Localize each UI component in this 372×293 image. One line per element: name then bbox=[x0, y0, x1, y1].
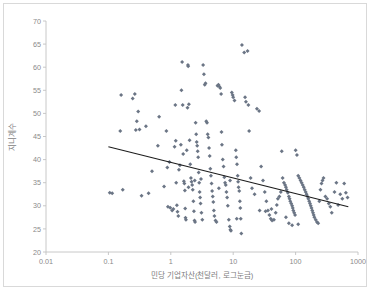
y-tick-label: 40 bbox=[33, 155, 41, 164]
data-point bbox=[176, 214, 180, 218]
x-tick-label: 1 bbox=[169, 257, 173, 266]
data-point bbox=[136, 110, 140, 114]
y-tick-label: 25 bbox=[33, 225, 41, 234]
data-point bbox=[261, 178, 265, 182]
data-point bbox=[239, 217, 243, 221]
data-point bbox=[180, 60, 184, 64]
data-point bbox=[236, 180, 240, 184]
data-point bbox=[137, 128, 141, 132]
data-point bbox=[189, 176, 193, 180]
data-point bbox=[219, 92, 223, 96]
data-point bbox=[280, 149, 284, 153]
x-axis-title: 민당 기업자산(천달러, 로그눈금) bbox=[151, 270, 254, 280]
data-point bbox=[135, 119, 139, 123]
data-point bbox=[290, 223, 294, 227]
data-point bbox=[202, 72, 206, 76]
data-point bbox=[173, 145, 177, 149]
data-point bbox=[220, 143, 224, 147]
data-point bbox=[340, 197, 344, 201]
data-point bbox=[221, 158, 225, 162]
data-point bbox=[185, 106, 189, 110]
data-point bbox=[175, 210, 179, 214]
data-point bbox=[217, 186, 221, 190]
data-point bbox=[206, 132, 210, 136]
data-point bbox=[281, 176, 285, 180]
chart-frame: 2025303540455055606570 0.010.11101001000… bbox=[3, 3, 367, 287]
data-point bbox=[212, 214, 216, 218]
data-point bbox=[165, 165, 169, 169]
data-point bbox=[244, 100, 248, 104]
data-point bbox=[177, 168, 181, 172]
data-point bbox=[338, 192, 342, 196]
x-axis-ticks: 0.010.11101001000 bbox=[39, 252, 366, 266]
data-point bbox=[235, 217, 239, 221]
y-tick-label: 35 bbox=[33, 178, 41, 187]
data-point bbox=[174, 139, 178, 143]
data-point bbox=[294, 148, 298, 152]
data-point bbox=[194, 121, 198, 125]
data-point bbox=[198, 190, 202, 194]
data-point bbox=[131, 97, 135, 101]
data-point bbox=[208, 167, 212, 171]
data-point bbox=[246, 49, 250, 53]
y-tick-label: 70 bbox=[33, 17, 41, 26]
data-point bbox=[228, 178, 232, 182]
data-point bbox=[175, 203, 179, 207]
y-tick-label: 60 bbox=[33, 63, 41, 72]
data-point bbox=[318, 188, 322, 192]
data-point bbox=[208, 154, 212, 158]
data-point bbox=[196, 149, 200, 153]
data-point bbox=[210, 189, 214, 193]
data-point bbox=[200, 218, 204, 222]
data-point bbox=[201, 63, 205, 67]
data-point bbox=[319, 182, 323, 186]
data-point bbox=[334, 181, 338, 185]
data-point bbox=[147, 191, 151, 195]
data-point bbox=[235, 162, 239, 166]
data-point bbox=[237, 185, 241, 189]
data-point bbox=[239, 232, 243, 236]
data-point bbox=[287, 221, 291, 225]
data-point bbox=[259, 165, 263, 169]
data-point bbox=[118, 129, 122, 133]
data-point bbox=[220, 130, 224, 134]
data-point bbox=[236, 174, 240, 178]
data-point bbox=[157, 115, 161, 119]
data-point bbox=[209, 174, 213, 178]
y-tick-label: 45 bbox=[33, 132, 41, 141]
y-axis-title: 지니계수 bbox=[7, 123, 17, 151]
data-point bbox=[188, 162, 192, 166]
data-point bbox=[181, 152, 185, 156]
data-point bbox=[144, 124, 148, 128]
data-point bbox=[174, 181, 178, 185]
data-point bbox=[194, 132, 198, 136]
data-point bbox=[164, 129, 168, 133]
data-point bbox=[264, 199, 268, 203]
data-point bbox=[211, 195, 215, 199]
x-tick-label: 100 bbox=[290, 257, 302, 266]
data-point bbox=[119, 93, 123, 97]
data-point bbox=[296, 222, 300, 226]
data-point bbox=[247, 129, 251, 133]
data-point bbox=[134, 128, 138, 132]
scatter-plot: 2025303540455055606570 0.010.11101001000… bbox=[4, 4, 368, 288]
data-point bbox=[186, 185, 190, 189]
data-point bbox=[179, 88, 183, 92]
data-point bbox=[199, 201, 203, 205]
data-point bbox=[284, 215, 288, 219]
data-point bbox=[156, 144, 160, 148]
y-tick-label: 65 bbox=[33, 40, 41, 49]
data-point bbox=[207, 146, 211, 150]
data-point bbox=[246, 103, 250, 107]
data-point bbox=[195, 140, 199, 144]
data-point bbox=[211, 200, 215, 204]
data-point bbox=[197, 181, 201, 185]
data-point bbox=[190, 183, 194, 187]
data-point bbox=[196, 155, 200, 159]
data-point bbox=[173, 103, 177, 107]
data-point bbox=[192, 209, 196, 213]
data-point bbox=[253, 192, 257, 196]
data-point bbox=[342, 182, 346, 186]
x-tick-label: 1000 bbox=[350, 257, 366, 266]
data-point bbox=[198, 195, 202, 199]
